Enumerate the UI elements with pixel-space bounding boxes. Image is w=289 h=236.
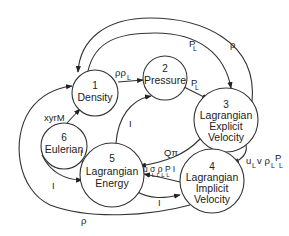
dataflow-diagram: 1 Density 2 Pressure 3 Lagrangian Explic… <box>0 0 289 236</box>
edge-label-6-1: xyrM <box>44 112 65 123</box>
edge-label-3-5: Qπ <box>164 147 178 158</box>
node-number: 5 <box>109 153 115 164</box>
edge-label-3-4-u: u <box>246 155 251 166</box>
edge-label-3-1: ρ <box>230 39 236 50</box>
node-label: Velocity <box>208 131 245 143</box>
edge-6-to-1 <box>67 109 80 123</box>
node-4-lagrangian-implicit-velocity[interactable]: 4 Lagrangian Implicit Velocity <box>180 149 244 213</box>
node-number: 6 <box>61 132 67 143</box>
node-label: Lagrangian <box>86 165 139 177</box>
edge-label-1-2: ρρ <box>115 67 126 78</box>
edge-label-2-3-sub: L <box>195 84 199 91</box>
node-label: Velocity <box>194 193 231 205</box>
node-label: Pressure <box>144 74 186 86</box>
node-number: 1 <box>92 80 98 91</box>
edge-5-to-2 <box>116 96 151 143</box>
node-label: Density <box>77 91 113 103</box>
node-number: 2 <box>162 63 168 74</box>
edge-label-6-5: I <box>52 180 55 191</box>
node-1-density[interactable]: 1 Density <box>72 70 118 116</box>
edge-label-4-5-sub: L L L L L <box>147 172 170 178</box>
edge-label-5-4: I <box>158 197 161 208</box>
node-6-eulerian[interactable]: 6 Eulerian <box>41 123 87 169</box>
node-label: Energy <box>95 177 129 189</box>
node-3-lagrangian-explicit-velocity[interactable]: 3 Lagrangian Explicit Velocity <box>194 88 258 152</box>
node-5-lagrangian-energy[interactable]: 5 Lagrangian Energy <box>80 143 144 207</box>
node-2-pressure[interactable]: 2 Pressure <box>143 56 187 100</box>
edge-label-5-6: I <box>80 147 83 158</box>
edge-label-3-4-u-sub: L <box>252 162 256 169</box>
node-label: Eulerian <box>45 143 84 155</box>
edge-label-3-4-p-sub: L <box>279 162 283 169</box>
edge-label-1-2-sub: L <box>127 74 131 81</box>
edge-label-3-4-vrho-sub: L <box>271 162 275 169</box>
edge-label-3-4-vrho: v ρ <box>257 155 270 166</box>
edge-label-5-2: I <box>129 118 132 129</box>
edge-label-4-1: ρ <box>81 215 87 226</box>
edge-label-1-3-sub: L <box>193 45 197 52</box>
